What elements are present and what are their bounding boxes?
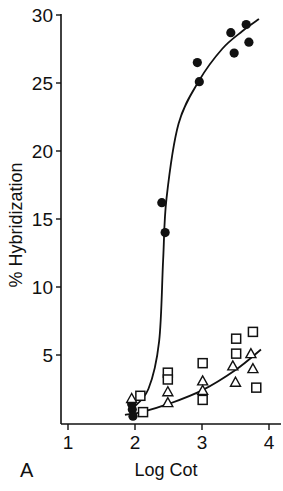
open-square-point [139, 408, 148, 417]
open-square-point [232, 349, 241, 358]
open-triangle-point [248, 364, 258, 373]
x-tick-label: 1 [63, 432, 74, 453]
data-markers [127, 20, 261, 421]
x-ticks: 1234 [63, 424, 275, 453]
open-square-point [198, 359, 207, 368]
y-tick-label: 15 [32, 209, 53, 230]
open-triangle-point [228, 361, 238, 370]
open-triangle-point [163, 387, 173, 396]
filled-circle-point [244, 38, 253, 47]
x-tick-label: 4 [264, 432, 275, 453]
hybridization-chart: 51015202530 1234 % Hybridization Log Cot… [0, 0, 283, 491]
y-axis-title: % Hybridization [6, 162, 26, 287]
open-triangle-point [231, 377, 241, 386]
axes [61, 14, 281, 424]
filled-circle-point [226, 28, 235, 37]
y-ticks: 51015202530 [32, 5, 61, 366]
filled-circle-point [193, 58, 202, 67]
filled-circle-point [161, 228, 170, 237]
y-tick-label: 30 [32, 5, 53, 26]
open-square-point [232, 334, 241, 343]
y-tick-label: 10 [32, 277, 53, 298]
y-tick-label: 5 [42, 345, 53, 366]
x-axis-title: Log Cot [134, 460, 197, 480]
x-tick-label: 3 [197, 432, 208, 453]
open-square-point [136, 391, 145, 400]
filled-circle-point [242, 20, 251, 29]
open-square-point [252, 383, 261, 392]
x-tick-label: 2 [130, 432, 141, 453]
fit-curve [125, 350, 261, 415]
open-square-point [198, 395, 207, 404]
panel-label: A [20, 459, 34, 481]
filled-circle-point [230, 48, 239, 57]
open-triangle-point [246, 349, 256, 358]
filled-circle-point [128, 412, 137, 421]
open-square-point [163, 375, 172, 384]
y-tick-label: 20 [32, 141, 53, 162]
filled-circle-point [195, 77, 204, 86]
open-triangle-point [198, 376, 208, 385]
open-triangle-point [198, 385, 208, 394]
y-tick-label: 25 [32, 73, 53, 94]
open-square-point [248, 327, 257, 336]
filled-circle-point [157, 198, 166, 207]
